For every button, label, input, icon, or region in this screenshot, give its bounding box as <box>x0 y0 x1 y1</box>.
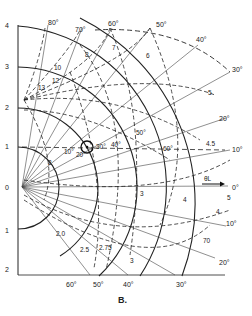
svg-text:13: 13 <box>38 84 46 91</box>
svg-text:12: 12 <box>52 77 60 84</box>
svg-text:20°: 20° <box>76 151 86 158</box>
svg-text:4: 4 <box>216 208 220 215</box>
svg-text:10: 10 <box>54 64 62 71</box>
svg-text:10°: 10° <box>226 220 237 227</box>
polar-diagram: θL 4 3 2 1 0 1 2 80° 70° 60° 50° 40° 30°… <box>0 0 252 316</box>
svg-text:4.5: 4.5 <box>206 140 215 147</box>
svg-text:10°: 10° <box>232 146 243 153</box>
svg-text:8: 8 <box>85 51 89 58</box>
svg-text:6: 6 <box>146 52 150 59</box>
svg-text:50°: 50° <box>93 281 104 288</box>
svg-text:30°: 30° <box>176 281 187 288</box>
svg-text:1: 1 <box>5 143 9 150</box>
svg-text:40°: 40° <box>111 141 121 148</box>
svg-text:70°: 70° <box>75 26 86 33</box>
svg-text:60°: 60° <box>108 20 119 27</box>
svg-text:4: 4 <box>5 22 9 29</box>
svg-text:0°: 0° <box>232 184 239 191</box>
svg-text:2: 2 <box>5 266 9 273</box>
theta-label: θL <box>204 175 212 182</box>
svg-text:50°: 50° <box>136 129 146 136</box>
svg-text:30°: 30° <box>232 66 243 73</box>
svg-text:5: 5 <box>227 194 231 201</box>
svg-text:3: 3 <box>5 63 9 70</box>
svg-text:20°: 20° <box>219 259 230 266</box>
svg-text:3: 3 <box>140 190 144 197</box>
svg-text:4: 4 <box>183 196 187 203</box>
svg-text:1: 1 <box>5 227 9 234</box>
target-dot <box>86 146 89 149</box>
svg-text:40°: 40° <box>196 36 207 43</box>
svg-text:30°: 30° <box>96 143 106 150</box>
svg-text:2.0: 2.0 <box>56 230 65 237</box>
y-axis-ticks: 4 3 2 1 0 1 2 <box>5 22 9 273</box>
svg-text:2.75: 2.75 <box>99 244 112 251</box>
svg-text:2: 2 <box>48 159 52 166</box>
svg-text:20°: 20° <box>219 115 230 122</box>
figure-caption: B. <box>118 295 127 305</box>
svg-text:70: 70 <box>203 237 211 244</box>
svg-text:60°: 60° <box>163 145 173 152</box>
svg-text:0: 0 <box>5 184 9 191</box>
svg-text:3: 3 <box>130 257 134 264</box>
svg-text:60°: 60° <box>66 281 77 288</box>
svg-text:2: 2 <box>5 104 9 111</box>
lower-angle-labels: 10° 20° 30° 40° 50° 60° <box>66 220 237 288</box>
svg-text:5: 5 <box>208 89 212 96</box>
svg-text:50°: 50° <box>156 21 167 28</box>
svg-text:80°: 80° <box>48 19 59 26</box>
svg-text:7: 7 <box>112 44 116 51</box>
svg-text:40°: 40° <box>123 281 134 288</box>
svg-text:10°: 10° <box>64 148 74 155</box>
svg-text:2.5: 2.5 <box>80 246 89 253</box>
